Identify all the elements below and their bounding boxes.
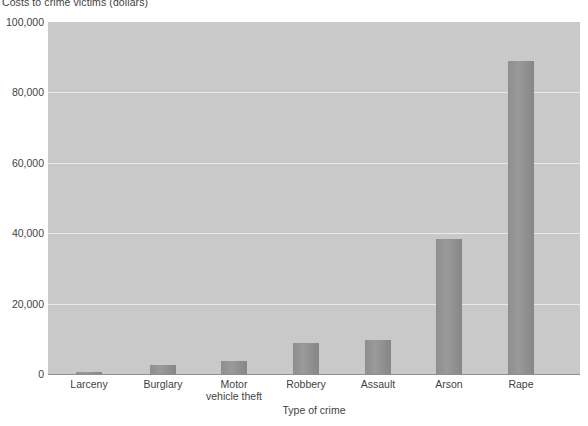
y-tick-label: 20,000 [0, 299, 44, 310]
bar-assault [365, 340, 391, 374]
plot-area [48, 22, 580, 374]
y-tick-label: 80,000 [0, 87, 44, 98]
bar-burglary [150, 365, 176, 374]
gridline-60000 [48, 163, 580, 164]
bar-robbery [293, 343, 319, 374]
x-axis-title: Type of crime [48, 404, 580, 416]
x-axis-line [48, 374, 580, 375]
y-tick-label: 100,000 [0, 17, 44, 28]
bar-motor-vehicle-theft [221, 361, 247, 374]
y-axis-tick-labels: 100,000 80,000 60,000 40,000 20,000 0 [0, 0, 44, 426]
x-tick-line: Rape [476, 378, 566, 390]
gridline-80000 [48, 92, 580, 93]
bar-chart: Costs to crime victims (dollars) 100,000… [0, 0, 588, 426]
y-tick-label: 60,000 [0, 158, 44, 169]
bar-rape [508, 61, 534, 374]
gridline-40000 [48, 233, 580, 234]
y-tick-label: 0 [0, 369, 44, 380]
gridline-20000 [48, 304, 580, 305]
bar-arson [436, 239, 462, 374]
x-tick-line: vehicle theft [189, 390, 279, 402]
x-tick-label-rape: Rape [476, 378, 566, 390]
y-tick-label: 40,000 [0, 228, 44, 239]
